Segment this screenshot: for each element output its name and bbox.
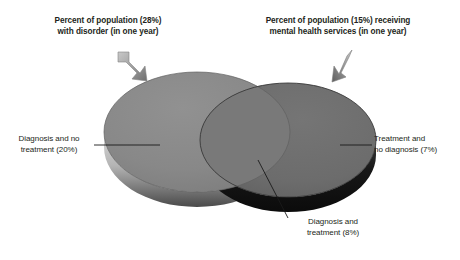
venn-diagram-figure: Percent of population (28%) with disorde…: [0, 0, 460, 260]
callout-label-right-only: Treatment and no diagnosis (7%): [374, 134, 458, 156]
pointer-arrow-right-icon: [332, 50, 352, 82]
callout-title-right: Percent of population (15%) receiving me…: [238, 15, 438, 37]
callout-title-left: Percent of population (28%) with disorde…: [22, 15, 194, 37]
pointer-arrow-left-icon: [118, 52, 147, 81]
callout-label-left-only: Diagnosis and no treatment (20%): [8, 134, 90, 156]
venn-diagram-graphic: [0, 0, 460, 260]
callout-label-intersection: Diagnosis and treatment (8%): [288, 217, 378, 239]
